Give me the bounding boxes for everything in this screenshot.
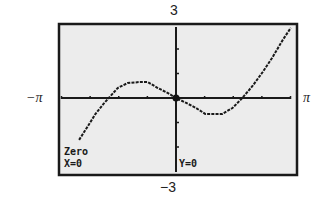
calculator-screen — [0, 0, 324, 211]
zero-cursor — [173, 95, 180, 102]
mode-readout: Zero — [64, 147, 88, 157]
x-readout: X=0 — [64, 159, 82, 169]
y-readout: Y=0 — [179, 159, 197, 169]
